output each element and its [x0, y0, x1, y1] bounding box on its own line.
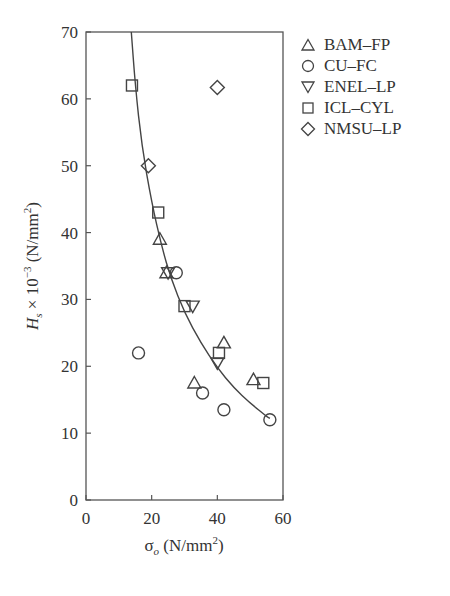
triangle-up-marker — [188, 377, 201, 389]
data-markers — [126, 80, 275, 426]
legend: BAM–FP CU–FC ENEL–LP ICL–CYL NMSU–LP — [300, 34, 401, 139]
x-axis-label: σo (N/mm2) — [144, 534, 223, 557]
y-tick-label: 20 — [61, 357, 78, 376]
triangle-up-icon — [300, 37, 316, 53]
diamond-icon — [300, 121, 316, 137]
axis-ticks — [86, 32, 283, 500]
circle-marker — [197, 387, 209, 399]
y-tick-label: 60 — [61, 90, 78, 109]
y-tick-label: 70 — [61, 23, 78, 42]
legend-item-nmsu-lp: NMSU–LP — [300, 118, 401, 139]
legend-item-cu-fc: CU–FC — [300, 55, 401, 76]
triangle-down-icon — [300, 79, 316, 95]
diamond-marker — [210, 80, 224, 94]
x-tick-label: 20 — [143, 509, 160, 528]
circle-marker — [218, 404, 230, 416]
diamond-marker — [141, 159, 155, 173]
square-icon — [300, 100, 316, 116]
x-tick-label: 60 — [275, 509, 292, 528]
y-tick-label: 30 — [61, 290, 78, 309]
plot-frame — [86, 32, 283, 500]
y-tick-label: 50 — [61, 157, 78, 176]
circle-marker — [264, 414, 276, 426]
fit-curve — [131, 32, 270, 418]
legend-item-bam-fp: BAM–FP — [300, 34, 401, 55]
legend-item-enel-lp: ENEL–LP — [300, 76, 401, 97]
circle-marker — [133, 347, 145, 359]
y-tick-label: 40 — [61, 224, 78, 243]
square-marker — [213, 347, 224, 358]
y-axis-label: Hs × 10−3 (N/mm2) — [21, 202, 44, 331]
legend-item-icl-cyl: ICL–CYL — [300, 97, 401, 118]
triangle-up-marker — [217, 336, 230, 348]
y-tick-label: 0 — [70, 491, 79, 510]
triangle-down-marker — [186, 301, 199, 313]
legend-label: CU–FC — [324, 56, 377, 76]
axis-tick-labels: 0204060010203040506070 — [61, 23, 292, 528]
x-tick-label: 0 — [82, 509, 91, 528]
legend-label: BAM–FP — [324, 35, 390, 55]
x-tick-label: 40 — [209, 509, 226, 528]
y-tick-label: 10 — [61, 424, 78, 443]
legend-label: NMSU–LP — [324, 119, 401, 139]
legend-label: ENEL–LP — [324, 77, 396, 97]
legend-label: ICL–CYL — [324, 98, 394, 118]
circle-icon — [300, 58, 316, 74]
